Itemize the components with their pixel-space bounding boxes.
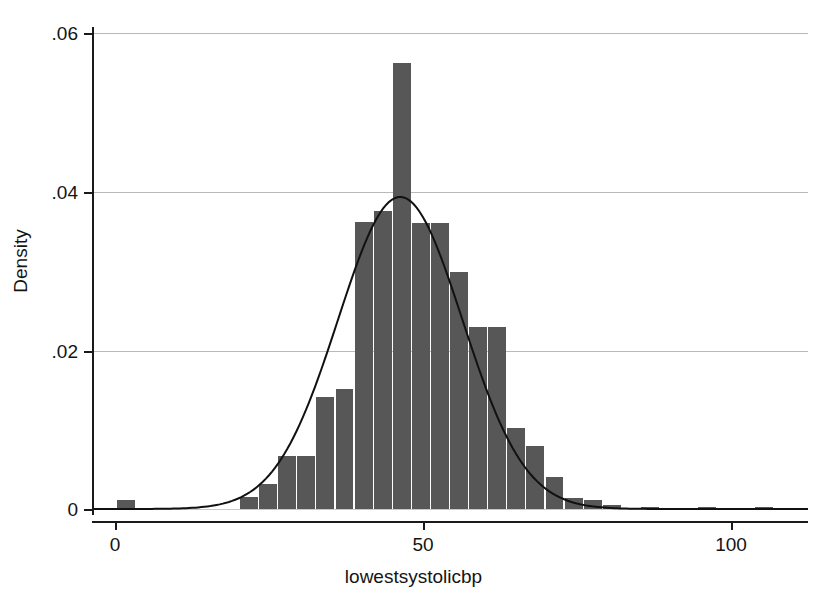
gridline-0.06 <box>92 33 808 34</box>
y-tick-label-0.02: .02 <box>18 342 78 361</box>
y-tick-0 <box>84 509 93 511</box>
y-tick-0.04 <box>84 192 93 194</box>
x-axis-title: lowestsystolicbp <box>0 566 827 588</box>
histogram-bar <box>355 222 373 509</box>
histogram-bar <box>336 389 354 509</box>
histogram-bar <box>488 327 506 509</box>
histogram-plot-area: .06 .04 .02 0 0 50 100 lowestsystolicbp … <box>0 0 827 607</box>
x-tick-label-0: 0 <box>85 535 145 554</box>
histogram-bar <box>240 497 258 509</box>
histogram-bar <box>431 223 449 509</box>
gridline-0.04 <box>92 192 808 193</box>
histogram-bar <box>297 456 315 509</box>
histogram-bar <box>316 397 334 509</box>
histogram-bar <box>755 507 773 509</box>
y-tick-0.06 <box>84 33 93 35</box>
histogram-bar <box>546 477 564 509</box>
y-tick-0.02 <box>84 351 93 353</box>
histogram-bar <box>117 500 135 509</box>
y-axis-title: Density <box>10 191 32 331</box>
gridline-0 <box>92 509 808 510</box>
histogram-bar <box>603 505 621 509</box>
x-tick-label-100: 100 <box>701 535 761 554</box>
histogram-bar <box>698 507 716 509</box>
chart-figure: .06 .04 .02 0 0 50 100 lowestsystolicbp … <box>0 0 827 607</box>
histogram-bar <box>507 428 525 509</box>
x-tick-50 <box>423 521 425 530</box>
histogram-bar <box>584 500 602 509</box>
y-tick-label-0: 0 <box>18 500 78 519</box>
histogram-bar <box>278 456 296 509</box>
histogram-bar <box>374 211 392 509</box>
histogram-bar <box>412 223 430 509</box>
x-tick-100 <box>731 521 733 530</box>
histogram-bar <box>393 63 411 509</box>
histogram-bar <box>259 484 277 509</box>
x-tick-label-50: 50 <box>393 535 453 554</box>
histogram-bar <box>450 272 468 509</box>
histogram-bar <box>641 507 659 509</box>
y-tick-label-0.06: .06 <box>18 24 78 43</box>
histogram-bar <box>526 446 544 509</box>
histogram-bar <box>565 498 583 509</box>
y-axis-line <box>92 27 94 515</box>
x-tick-0 <box>115 521 117 530</box>
histogram-bar <box>469 327 487 509</box>
x-axis-line <box>92 521 808 523</box>
